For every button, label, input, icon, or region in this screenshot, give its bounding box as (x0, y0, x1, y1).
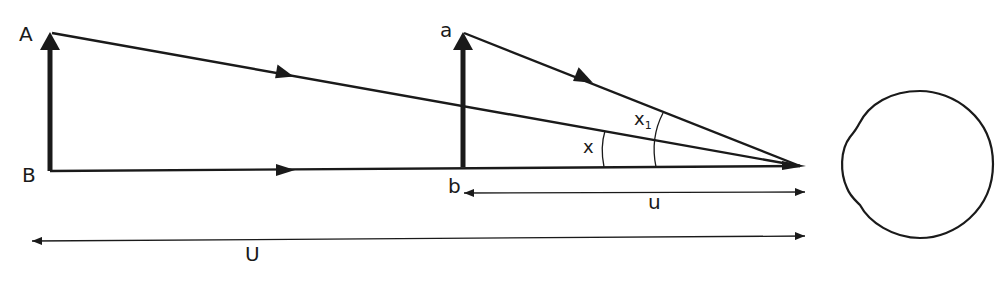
angle-arc-x (602, 131, 605, 167)
label-a: a (440, 20, 452, 40)
object-arrow-ab (453, 32, 473, 167)
label-b: b (448, 176, 461, 196)
object-arrow-AB (40, 32, 60, 171)
label-angle-x1-sub: 1 (645, 119, 652, 132)
label-u: u (648, 192, 661, 212)
label-U: U (245, 244, 260, 264)
label-angle-x1-main: x (634, 108, 645, 129)
label-angle-x: x (583, 138, 594, 156)
dimension-u (464, 192, 805, 193)
axis-B-to-eye (50, 164, 800, 176)
label-A: A (19, 24, 33, 44)
ray-A-to-eye (52, 33, 800, 166)
eye-icon (842, 91, 993, 238)
label-B: B (22, 165, 36, 185)
diagram-svg (0, 0, 1007, 286)
dimension-U (32, 236, 805, 241)
diagram-canvas: A B a b x x1 u U (0, 0, 1007, 286)
label-angle-x1: x1 (634, 110, 652, 131)
ray-a-to-eye (464, 33, 800, 166)
